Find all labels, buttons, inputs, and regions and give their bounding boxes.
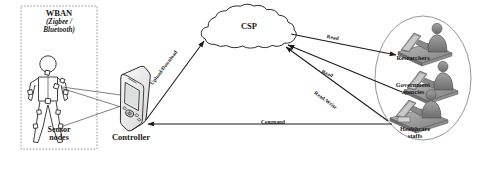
healthcare-staffs-label: Healthcare staffs bbox=[380, 126, 450, 139]
wban-title: WBAN bbox=[20, 9, 98, 18]
arrow-label-command: Command bbox=[261, 119, 285, 125]
sensor-to-controller-lines bbox=[62, 87, 121, 127]
wban-subtitle: (Zigbee / Bluetooth) bbox=[20, 19, 98, 34]
government-agencies-label-line2: agencies bbox=[375, 89, 451, 96]
controller-label: Controller bbox=[96, 133, 166, 142]
researchers-label: Researchers bbox=[375, 55, 451, 62]
arrow-read-write bbox=[286, 47, 388, 121]
controller-device bbox=[120, 66, 150, 131]
connector-arrows bbox=[146, 34, 402, 124]
government-agencies-label: Government agencies bbox=[375, 82, 451, 95]
sensor-nodes-label: Sensor nodes bbox=[20, 126, 98, 143]
sensor-nodes-label-line2: nodes bbox=[20, 134, 98, 142]
arrow-read-top bbox=[291, 34, 396, 55]
diagram-canvas: WBAN (Zigbee / Bluetooth) Sensor nodes C… bbox=[0, 0, 482, 172]
wban-subtitle-line2: Bluetooth) bbox=[20, 27, 98, 35]
cloud-csp-label: CSP bbox=[225, 22, 273, 31]
healthcare-staffs-label-line2: staffs bbox=[380, 133, 450, 140]
